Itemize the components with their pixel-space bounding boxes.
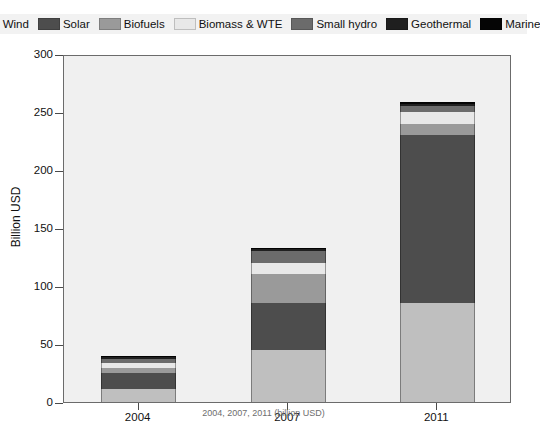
- bar-segment-biomass-wte[interactable]: [251, 263, 326, 275]
- chart-axes-area: [63, 55, 511, 403]
- bar-segment-biofuels[interactable]: [251, 274, 326, 303]
- legend-item-marine[interactable]: Marine: [480, 18, 540, 30]
- legend-item-biofuels[interactable]: Biofuels: [99, 18, 165, 30]
- legend-item-label: Biofuels: [124, 18, 165, 30]
- y-axis-tick-label: 300: [5, 48, 53, 60]
- chart-plot-wrapper: 050100150200250300 Billion USD 200420072…: [0, 34, 527, 418]
- stacked-bar-2011[interactable]: [400, 102, 475, 402]
- legend-swatch-icon: [480, 18, 502, 30]
- legend-swatch-icon: [386, 18, 408, 30]
- y-axis-tick: [55, 287, 63, 288]
- legend-swatch-icon: [38, 18, 60, 30]
- y-axis-tick: [55, 55, 63, 56]
- y-axis-title: Billion USD: [9, 137, 23, 297]
- legend-item-label: Biomass & WTE: [199, 18, 283, 30]
- legend-item-geothermal[interactable]: Geothermal: [386, 18, 471, 30]
- legend-item-small-hydro[interactable]: Small hydro: [291, 18, 377, 30]
- stacked-bar-2007[interactable]: [251, 248, 326, 402]
- bar-segment-solar[interactable]: [251, 303, 326, 349]
- y-axis-tick: [55, 171, 63, 172]
- bar-segment-solar[interactable]: [400, 135, 475, 303]
- bar-segment-biomass-wte[interactable]: [400, 112, 475, 124]
- chart-legend: WindSolarBiofuelsBiomass & WTESmall hydr…: [0, 14, 527, 34]
- legend-item-wind[interactable]: Wind: [0, 18, 29, 30]
- y-axis-tick: [55, 229, 63, 230]
- legend-item-label: Marine: [505, 18, 540, 30]
- bar-segment-biofuels[interactable]: [400, 124, 475, 136]
- legend-swatch-icon: [174, 18, 196, 30]
- legend-item-solar[interactable]: Solar: [38, 18, 90, 30]
- y-axis-tick-label: 0: [5, 396, 53, 408]
- stacked-bar-2004[interactable]: [101, 356, 176, 402]
- bar-segment-wind[interactable]: [400, 303, 475, 402]
- y-axis-tick-label: 250: [5, 106, 53, 118]
- legend-swatch-icon: [291, 18, 313, 30]
- bar-segment-small-hydro[interactable]: [251, 251, 326, 263]
- legend-item-label: Solar: [63, 18, 90, 30]
- y-axis-tick: [55, 345, 63, 346]
- y-axis-tick-label: 50: [5, 338, 53, 350]
- legend-swatch-icon: [99, 18, 121, 30]
- y-axis-tick: [55, 403, 63, 404]
- bar-segment-wind[interactable]: [101, 389, 176, 402]
- legend-item-label: Geothermal: [411, 18, 471, 30]
- legend-item-label: Wind: [3, 18, 29, 30]
- legend-item-biomass-wte[interactable]: Biomass & WTE: [174, 18, 283, 30]
- figure-caption: 2004, 2007, 2011 (billion USD): [0, 408, 527, 418]
- legend-item-label: Small hydro: [316, 18, 377, 30]
- bar-segment-wind[interactable]: [251, 350, 326, 402]
- y-axis-tick: [55, 113, 63, 114]
- bar-segment-solar[interactable]: [101, 373, 176, 389]
